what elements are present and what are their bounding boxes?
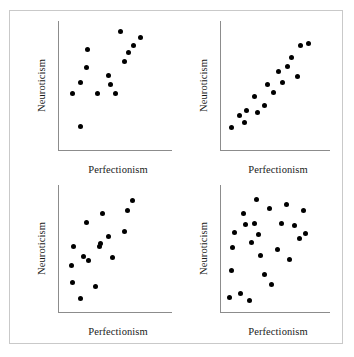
data-point <box>237 113 242 118</box>
x-axis-label: Perfectionism <box>220 326 336 337</box>
data-point <box>100 211 105 216</box>
y-axis-label: Neuroticism <box>188 19 218 151</box>
scatterplot-panel-top-right: Neuroticism Perfectionism <box>188 19 336 177</box>
data-point <box>292 223 297 228</box>
data-point <box>244 108 249 113</box>
data-point <box>106 234 111 239</box>
data-point <box>78 296 83 301</box>
y-axis-label: Neuroticism <box>26 183 56 313</box>
data-point <box>298 43 303 48</box>
data-point <box>276 69 281 74</box>
data-point <box>85 47 90 52</box>
data-point <box>138 35 143 40</box>
data-point <box>84 220 89 225</box>
data-point <box>279 221 284 226</box>
data-point <box>243 222 248 227</box>
data-point <box>306 41 311 46</box>
data-point <box>70 280 75 285</box>
y-axis-label: Neuroticism <box>188 183 218 313</box>
scatterplot-panel-bottom-left: Neuroticism Perfectionism <box>26 183 178 339</box>
data-point <box>241 211 246 216</box>
data-point <box>98 241 103 246</box>
x-axis-label: Perfectionism <box>220 164 336 175</box>
y-axis-label-text: Neuroticism <box>36 221 47 274</box>
y-axis-label: Neuroticism <box>26 19 56 151</box>
data-point <box>289 55 294 60</box>
data-point <box>256 232 261 237</box>
data-point <box>247 298 252 303</box>
data-point <box>69 263 74 268</box>
data-point <box>227 295 232 300</box>
data-point <box>238 291 243 296</box>
x-axis-line <box>220 150 330 151</box>
data-point <box>81 254 86 259</box>
data-point <box>71 244 76 249</box>
data-point <box>125 208 130 213</box>
data-point <box>232 230 237 235</box>
data-point <box>78 124 83 129</box>
data-point <box>84 65 89 70</box>
data-point <box>252 221 257 226</box>
plot-area <box>220 21 330 151</box>
data-point <box>126 50 131 55</box>
data-point <box>303 231 308 236</box>
y-axis-line <box>220 185 221 313</box>
data-point <box>284 202 289 207</box>
y-axis-label-text: Neuroticism <box>198 58 209 111</box>
x-axis-label: Perfectionism <box>58 164 178 175</box>
data-point <box>252 94 257 99</box>
data-point <box>262 103 267 108</box>
data-point <box>131 43 136 48</box>
data-point <box>275 247 280 252</box>
data-point <box>130 198 135 203</box>
data-point <box>255 110 260 115</box>
data-point <box>269 282 274 287</box>
data-point <box>122 229 127 234</box>
data-point <box>297 236 302 241</box>
scatterplot-panel-top-left: Neuroticism Perfectionism <box>26 19 178 177</box>
y-axis-label-text: Neuroticism <box>198 221 209 274</box>
data-point <box>113 91 118 96</box>
data-point <box>95 91 100 96</box>
data-point <box>108 82 113 87</box>
data-point <box>118 29 123 34</box>
scatterplot-panel-bottom-right: Neuroticism Perfectionism <box>188 183 336 339</box>
data-point <box>295 74 300 79</box>
plot-area <box>58 185 172 313</box>
data-point <box>285 64 290 69</box>
data-point <box>70 91 75 96</box>
x-axis-line <box>58 150 172 151</box>
data-point <box>301 208 306 213</box>
y-axis-line <box>220 21 221 151</box>
y-axis-line <box>58 185 59 313</box>
data-point <box>230 245 235 250</box>
data-point <box>271 90 276 95</box>
data-point <box>229 125 234 130</box>
y-axis-label-text: Neuroticism <box>36 58 47 111</box>
data-point <box>287 257 292 262</box>
data-point <box>265 82 270 87</box>
data-point <box>249 240 254 245</box>
data-point <box>78 80 83 85</box>
figure-frame: Neuroticism Perfectionism Neuroticism Pe… <box>9 10 343 344</box>
data-point <box>110 255 115 260</box>
y-axis-line <box>58 21 59 151</box>
data-point <box>229 268 234 273</box>
data-point <box>254 197 259 202</box>
x-axis-label: Perfectionism <box>58 326 178 337</box>
data-point <box>267 206 272 211</box>
plot-area <box>220 185 330 313</box>
x-axis-line <box>220 312 330 313</box>
data-point <box>280 80 285 85</box>
data-point <box>86 258 91 263</box>
data-point <box>93 284 98 289</box>
data-point <box>262 272 267 277</box>
data-point <box>106 73 111 78</box>
plot-area <box>58 21 172 151</box>
x-axis-line <box>58 312 172 313</box>
data-point <box>258 253 263 258</box>
data-point <box>122 59 127 64</box>
data-point <box>242 120 247 125</box>
